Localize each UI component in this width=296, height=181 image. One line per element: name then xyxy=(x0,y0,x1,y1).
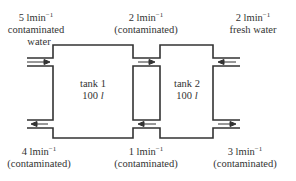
flow-rate: 1 lmin xyxy=(129,146,156,157)
tank-unit: l xyxy=(195,90,198,101)
arrow-right-icon-inlet-tank1 xyxy=(27,60,50,65)
flow-rate-exponent: −1 xyxy=(49,145,56,153)
tank-volume: 100 xyxy=(176,90,192,101)
label-tank1-to-tank2: 2 lmin−1 (contaminated) xyxy=(111,12,181,36)
label-tank2-to-tank1: 1 lmin−1 (contaminated) xyxy=(111,146,181,170)
tank2-label: tank 2 100 l xyxy=(157,78,217,102)
flow-rate-exponent: −1 xyxy=(156,145,163,153)
tank-unit: l xyxy=(101,90,104,101)
arrow-left-icon-tank2-to-tank1 xyxy=(138,122,156,127)
flow-rate: 4 lmin xyxy=(22,146,49,157)
arrow-right-icon-outlet-tank2 xyxy=(218,122,236,127)
flow-rate: 3 lmin xyxy=(228,146,255,157)
flow-description: fresh water xyxy=(222,24,284,36)
flow-rate-exponent: −1 xyxy=(46,11,53,19)
tank1-left-upper-wall xyxy=(27,66,53,87)
flow-rate: 2 lmin xyxy=(236,12,263,23)
label-inlet-tank2: 2 lmin−1 fresh water xyxy=(222,12,284,36)
flow-description: (contaminated) xyxy=(111,158,181,170)
label-inlet-tank1: 5 lmin−1 contaminated water xyxy=(6,12,66,48)
flow-description: (contaminated) xyxy=(210,158,280,170)
flow-rate-exponent: −1 xyxy=(255,145,262,153)
arrow-left-icon-outlet-tank1 xyxy=(31,122,48,127)
middle-top-pipe-bottom xyxy=(133,66,160,87)
middle-bottom-pipe-top xyxy=(133,87,160,120)
arrow-left-icon-inlet-tank2 xyxy=(218,60,236,65)
tank-volume: 100 xyxy=(82,90,98,101)
flow-description: (contaminated) xyxy=(4,158,74,170)
flow-rate-exponent: −1 xyxy=(263,11,270,19)
label-outlet-tank2: 3 lmin−1 (contaminated) xyxy=(210,146,280,170)
flow-rate: 2 lmin xyxy=(129,12,156,23)
flow-rate-exponent: −1 xyxy=(156,11,163,19)
tank1-label: tank 1 100 l xyxy=(63,78,123,102)
bottom-outline xyxy=(27,128,240,138)
tank2-right-upper-wall xyxy=(213,66,240,87)
flow-description: (contaminated) xyxy=(111,24,181,36)
flow-description: contaminated xyxy=(6,24,66,36)
label-outlet-tank1: 4 lmin−1 (contaminated) xyxy=(4,146,74,170)
tank-name: tank 2 xyxy=(157,78,217,90)
flow-rate: 5 lmin xyxy=(19,12,46,23)
tank1-left-lower-wall xyxy=(27,87,53,120)
tank-name: tank 1 xyxy=(63,78,123,90)
arrow-right-icon-tank1-to-tank2 xyxy=(138,60,155,65)
flow-description-2: water xyxy=(12,36,66,48)
tank2-right-lower-wall xyxy=(213,87,240,120)
